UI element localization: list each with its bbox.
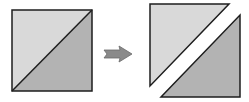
split-square-diagram: [0, 0, 249, 102]
transition-arrow: [104, 46, 132, 62]
diagram-canvas: [0, 0, 249, 102]
arrow-right-icon: [104, 46, 132, 62]
separated-triangles: [150, 4, 240, 97]
whole-square: [12, 10, 92, 91]
